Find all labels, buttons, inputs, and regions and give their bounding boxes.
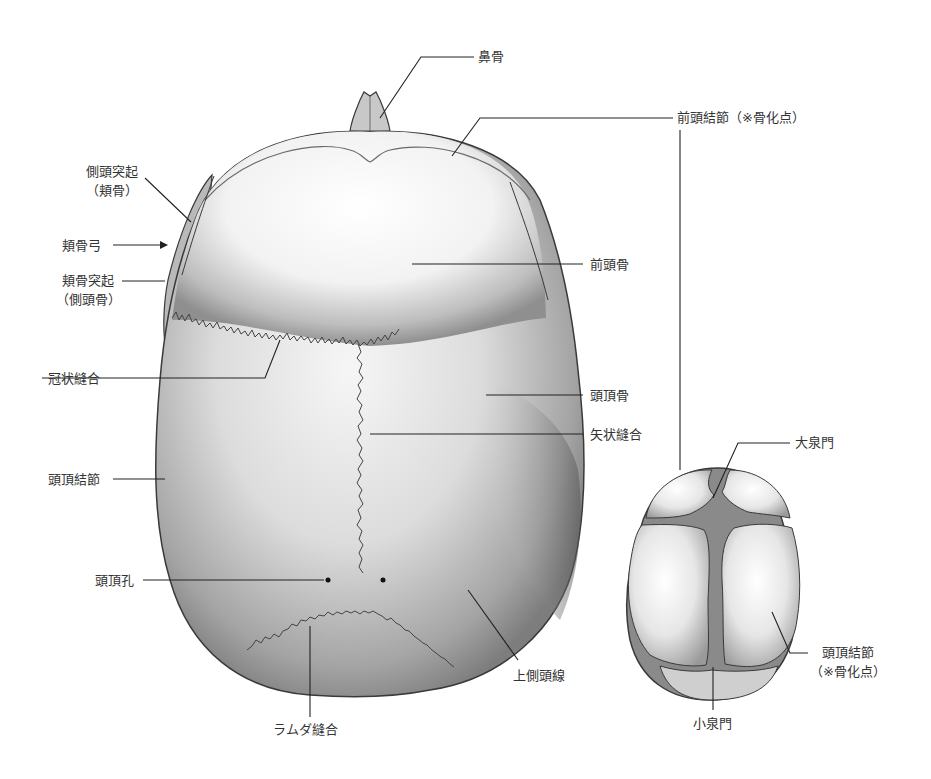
label-parietal-foramen: 頭頂孔 — [95, 573, 134, 589]
label-frontal-eminence: 前頭結節（※骨化点） — [677, 110, 805, 126]
label-parietal-eminence: 頭頂結節 — [48, 472, 100, 488]
label-posterior-fontanelle: 小泉門 — [693, 716, 732, 732]
label-frontal-process-zygomatic-1: 側頭突起 — [78, 164, 146, 180]
label-infant-parietal-eminence-2: （※骨化点） — [808, 664, 888, 680]
frontal-bone-region — [172, 132, 546, 346]
skull-diagram: 鼻骨 前頭結節（※骨化点） 側頭突起 （頬骨） 頬骨弓 頬骨突起 （側頭骨） 前… — [0, 0, 931, 779]
label-infant-parietal-eminence-1: 頭頂結節 — [808, 645, 888, 661]
label-zygomatic-process-temporal-1: 頬骨突起 — [54, 273, 122, 289]
infant-skull — [627, 468, 800, 700]
label-parietal-bone: 頭頂骨 — [590, 388, 629, 404]
label-sagittal-suture: 矢状縫合 — [590, 427, 642, 443]
arrow-head-icon — [160, 241, 168, 249]
label-frontal-process-zygomatic-2: （頬骨） — [78, 183, 146, 199]
label-nasal-bone: 鼻骨 — [478, 49, 504, 65]
parietal-foramen-right — [381, 578, 386, 583]
parietal-foramen-left — [326, 578, 331, 583]
label-zygomatic-arch: 頬骨弓 — [62, 238, 101, 254]
label-anterior-fontanelle: 大泉門 — [795, 435, 834, 451]
label-lambdoid-suture: ラムダ縫合 — [273, 722, 338, 738]
label-superior-temporal-line: 上側頭線 — [513, 668, 565, 684]
label-coronal-suture: 冠状縫合 — [48, 371, 100, 387]
adult-skull — [156, 92, 584, 697]
label-zygomatic-process-temporal-2: （側頭骨） — [54, 292, 122, 308]
label-frontal-bone: 前頭骨 — [590, 257, 629, 273]
